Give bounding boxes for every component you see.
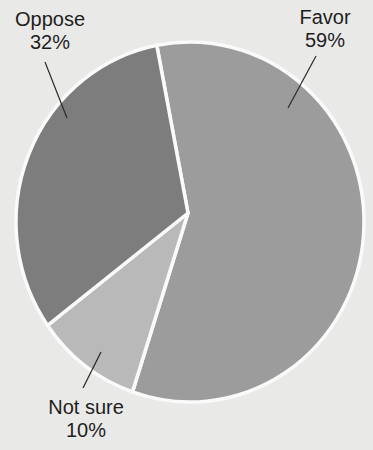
- label-oppose-pct: 32%: [10, 31, 90, 54]
- label-oppose-name: Oppose: [10, 8, 90, 31]
- label-favor: Favor 59%: [290, 6, 360, 52]
- pie-chart: [0, 0, 373, 450]
- label-notsure-name: Not sure: [36, 396, 136, 419]
- label-notsure: Not sure 10%: [36, 396, 136, 442]
- label-oppose: Oppose 32%: [10, 8, 90, 54]
- label-favor-name: Favor: [290, 6, 360, 29]
- label-notsure-pct: 10%: [36, 419, 136, 442]
- label-favor-pct: 59%: [290, 29, 360, 52]
